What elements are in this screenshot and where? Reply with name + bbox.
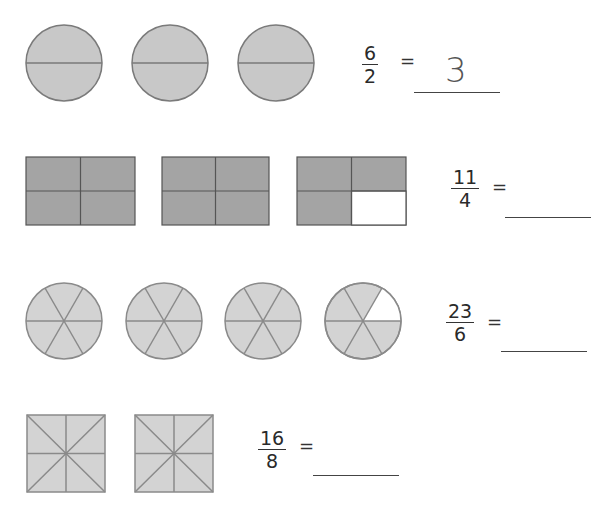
- circle-halves-3: [238, 25, 314, 101]
- row-halves-models: [26, 25, 314, 101]
- square-eighths-1: [27, 415, 105, 492]
- square-eighths-2: [135, 415, 213, 492]
- row-quarters-models: [26, 157, 406, 225]
- denominator: 8: [258, 450, 286, 472]
- equals-sign: =: [492, 176, 507, 197]
- denominator: 2: [362, 65, 378, 87]
- fraction-quarters: 11 4: [451, 166, 479, 211]
- answer-blank[interactable]: [501, 351, 587, 352]
- rect-quarters-3: [297, 157, 406, 225]
- denominator: 6: [446, 323, 474, 345]
- fraction-eighths: 16 8: [258, 427, 286, 472]
- row-sixths-models: [26, 283, 401, 359]
- equals-sign: =: [487, 311, 502, 332]
- equals-sign: =: [299, 435, 314, 456]
- numerator: 11: [451, 166, 479, 189]
- answer-blank[interactable]: [313, 475, 399, 476]
- fraction-halves: 6 2: [362, 42, 378, 87]
- numerator: 6: [362, 42, 378, 65]
- circle-halves-1: [26, 25, 102, 101]
- circle-sixths-2: [126, 283, 202, 359]
- denominator: 4: [451, 189, 479, 211]
- answer-text: 3: [445, 50, 467, 90]
- rect-quarters-2: [162, 157, 269, 225]
- fraction-models: [0, 0, 609, 508]
- circle-sixths-4: [325, 283, 401, 359]
- answer-blank[interactable]: [505, 217, 591, 218]
- numerator: 23: [446, 300, 474, 323]
- circle-sixths-1: [26, 283, 102, 359]
- numerator: 16: [258, 427, 286, 450]
- rect-quarters-1: [26, 157, 135, 225]
- answer-blank[interactable]: [414, 92, 500, 93]
- circle-sixths-3: [225, 283, 301, 359]
- circle-halves-2: [132, 25, 208, 101]
- equals-sign: =: [400, 50, 415, 71]
- row-eighths-models: [27, 415, 213, 492]
- fraction-sixths: 23 6: [446, 300, 474, 345]
